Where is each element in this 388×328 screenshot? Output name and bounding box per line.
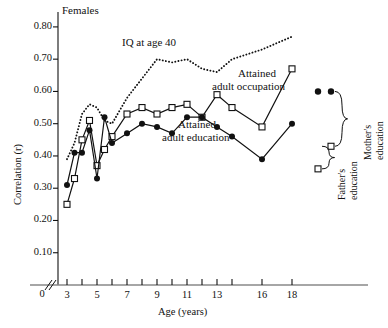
annotation-fathers-line2: education: [348, 161, 359, 200]
reference-point: [328, 143, 334, 149]
y-tick-label: 0.70: [18, 52, 52, 63]
x-tick-label: 3: [57, 289, 77, 300]
annotation-occupation-line1: Attained: [238, 67, 276, 79]
data-point: [154, 111, 160, 117]
reference-point: [315, 88, 321, 94]
y-tick-label: 0.60: [18, 84, 52, 95]
data-point: [102, 147, 108, 153]
chart-canvas: [0, 0, 388, 328]
data-point: [214, 92, 220, 98]
data-point: [64, 182, 70, 188]
data-point: [124, 111, 130, 117]
mothers-education-brace: [335, 91, 348, 146]
data-point: [109, 140, 115, 146]
x-axis-title: Age (years): [158, 306, 207, 317]
data-point: [229, 105, 235, 111]
data-point: [154, 124, 160, 130]
data-point: [289, 66, 295, 72]
panel-label: Females: [62, 4, 99, 16]
x-tick-label: 5: [87, 289, 107, 300]
x-tick-label: 11: [177, 289, 197, 300]
annotation-fathers-line1: Father's: [336, 169, 347, 200]
x-tick-label: 13: [207, 289, 227, 300]
data-point: [184, 101, 190, 107]
data-point: [72, 176, 78, 182]
x-axis-zero-label: 0: [32, 288, 52, 299]
x-tick-label: 16: [252, 289, 272, 300]
data-point: [139, 121, 145, 127]
data-point: [87, 127, 93, 133]
reference-point: [315, 166, 321, 172]
figure-root: Females Correlation (r) Age (years) 0 IQ…: [0, 0, 388, 328]
y-tick-label: 0.40: [18, 149, 52, 160]
annotation-occupation-line2: adult occupation: [212, 80, 285, 92]
y-tick-label: 0.20: [18, 213, 52, 224]
data-point: [289, 121, 295, 127]
data-point: [87, 117, 93, 123]
data-point: [259, 156, 265, 162]
y-tick-label: 0.80: [18, 20, 52, 31]
annotation-education-line1: Attained: [178, 118, 216, 130]
annotation-education-line2: adult education: [162, 131, 230, 143]
reference-point: [328, 88, 334, 94]
data-point: [259, 124, 265, 130]
annotation-mothers-line2: education: [374, 121, 385, 160]
data-point: [94, 176, 100, 182]
data-point: [169, 105, 175, 111]
y-tick-label: 0.10: [18, 246, 52, 257]
data-point: [79, 137, 85, 143]
data-point: [139, 105, 145, 111]
x-tick-label: 9: [147, 289, 167, 300]
data-point: [72, 150, 78, 156]
x-tick-label: 18: [282, 289, 302, 300]
y-tick-label: 0.50: [18, 117, 52, 128]
data-point: [124, 130, 130, 136]
annotation-iq: IQ at age 40: [122, 36, 176, 48]
data-point: [79, 150, 85, 156]
annotation-mothers-line1: Mother's: [362, 125, 373, 160]
y-tick-label: 0.30: [18, 181, 52, 192]
x-tick-label: 7: [117, 289, 137, 300]
data-point: [102, 114, 108, 120]
data-point: [64, 201, 70, 207]
